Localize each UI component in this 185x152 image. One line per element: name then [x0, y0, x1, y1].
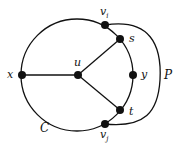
label-vi: vi	[100, 6, 108, 20]
label-cycle-c: C	[40, 122, 49, 134]
node-vi	[101, 21, 109, 29]
label-path-p: P	[164, 69, 172, 81]
node-u	[74, 71, 82, 79]
label-x: x	[7, 69, 13, 80]
label-u: u	[74, 57, 81, 68]
graph-canvas	[0, 0, 185, 152]
label-y: y	[141, 69, 147, 80]
node-x	[18, 71, 26, 79]
label-vj: vj	[100, 129, 108, 143]
label-s: s	[129, 33, 135, 44]
edge-u-t	[78, 75, 120, 110]
label-t: t	[129, 106, 133, 117]
edge-u-s	[78, 39, 120, 75]
node-s	[116, 35, 124, 43]
graph-diagram: vi s x u y t vj C P	[0, 0, 185, 152]
node-t	[116, 106, 124, 114]
node-vj	[101, 120, 109, 128]
node-y	[129, 71, 137, 79]
